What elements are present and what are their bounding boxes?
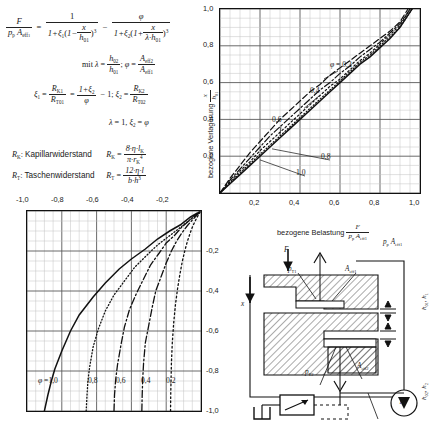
ll-xtick--0.6: -0,6 [86,195,99,204]
ll-label-phi-0.6: 0,6 [116,376,126,385]
ll-xtick--0.8: -0,8 [51,195,64,204]
ur-label-phi-0.8: 0,8 [321,152,331,161]
schematic-label-F: F [284,246,288,254]
ur-label-phi-0.2: φ = 0,2 [330,60,352,69]
control-dashed-line [314,405,348,419]
formula-block: Fpp Aeff1 = 11+ξ1(1−xh01)3 − φ1+ξ2(1+xλ·… [4,6,212,192]
gap-dimension-1 [380,301,396,321]
ur-xtick-0.8: 0,8 [369,198,379,207]
ur-ylabel-fraction: xh01 [202,90,219,102]
schematic-label-x: x [241,300,244,308]
ll-xtick--0.4: -0,4 [121,195,134,204]
ur-xtick-0.6: 0,6 [329,198,339,207]
ur-xlabel: bezogene Belastung Fpp Aeff1 [277,224,369,241]
schematic-label-pp: pp [400,396,406,405]
ur-xlabel-text: bezogene Belastung [277,228,344,237]
schematic-label-Aeff2: Aeff2 [357,362,368,371]
ur-label-phi-1.0: 1,0 [296,168,306,177]
main-equation: Fpp Aeff1 = 11+ξ1(1−xh01)3 − φ1+ξ2(1+xλ·… [6,12,170,44]
ll-ytick--0.2: -0,2 [206,246,219,255]
ur-xtick-0.2: 0,2 [249,198,259,207]
ur-ytick-0.8: 0,8 [203,40,213,49]
special-case-equation: λ = 1, ξ2 = φ [109,118,149,128]
ur-label-phi-0.4: 0,4 [310,86,320,95]
ur-ytick-1.0: 1,0 [203,4,213,13]
ll-xtick--0.2: -0,2 [156,195,169,204]
ll-label-phi-0.8: 0,8 [88,376,98,385]
legend-row-pocket: RT: Taschenwiderstand RT = 12·η·lb·h3 [12,166,146,185]
schematic-label-pT2: pT2 [305,368,314,377]
legend-row-capillary: RK: Kapillarwiderstand RK = 8·η·lKπ·rK4 [12,144,146,166]
schematic-label-Aeff1: Aeff1 [345,265,356,274]
schematic-label-pT1: pT1 [288,265,297,274]
pocket-1 [296,301,344,308]
ll-xtick--1.0: -1,0 [16,195,29,204]
ur-xtick-1.0: 1,0 [409,198,419,207]
ur-label-phi-0.6: 0,6 [272,115,282,124]
bearing-lower-inner [328,347,376,373]
figure-root: Fpp Aeff1 = 11+ξ1(1−xh01)3 − φ1+ξ2(1+xλ·… [0,0,438,428]
ur-ytick-0.6: 0,6 [203,77,213,86]
gap-dimension-2 [380,323,396,347]
ll-label-phi-1.0: φ =1,0 [38,376,58,385]
xi-definition: ξ1 = RK1RT01 = 1+ξ2φ − 1; ξ2 = RK2RT02 [34,84,148,106]
schematic-label-gap2: h02, h2 [420,383,429,400]
schematic-label-gap1: h01, h1 [420,293,429,310]
ll-label-phi-0.4: 0,4 [141,376,151,385]
pocket-2 [324,339,376,347]
ur-ylabel: bezogene Verlagerung xh01 [202,90,219,178]
ur-xlabel-fraction: Fpp Aeff1 [346,224,369,241]
chart-ur-canvas [220,9,420,193]
ll-label-phi-0.2: 0,2 [166,376,176,385]
schematic-label-pp-top: pp Aeff1 [383,238,402,247]
ll-ytick--1.0: -1,0 [206,406,219,415]
ur-xtick-0.4: 0,4 [289,198,299,207]
lambda-phi-definition: mit λ = h02h01; φ = Aeff2Aeff1 [82,54,155,76]
chart-upper-right [219,8,421,194]
ll-ytick--0.8: -0,8 [206,366,219,375]
ur-ylabel-text: bezogene Verlagerung [206,104,215,178]
ll-ytick--0.6: -0,6 [206,326,219,335]
ll-ytick--0.4: -0,4 [206,286,219,295]
